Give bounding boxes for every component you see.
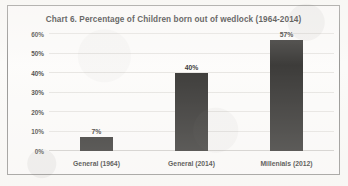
y-axis-tick-label: 30% <box>31 89 44 96</box>
y-axis-tick-label: 50% <box>31 50 44 57</box>
bar[interactable] <box>270 40 303 151</box>
chart-title: Chart 6. Percentage of Children born out… <box>8 15 339 24</box>
plot-area: 60%50%40%30%20%10%0%7%General (1964)40%G… <box>49 34 334 151</box>
bar-value-label: 57% <box>270 31 303 38</box>
bar-group: 57%Millenials (2012) <box>270 34 303 151</box>
y-axis-tick-label: 60% <box>31 30 44 37</box>
y-axis-tick-label: 20% <box>31 108 44 115</box>
chart-frame: Chart 6. Percentage of Children born out… <box>7 5 340 175</box>
x-axis-category-label: General (2014) <box>141 160 242 167</box>
x-axis-category-label: Millenials (2012) <box>236 160 337 167</box>
x-axis-category-label: General (1964) <box>46 160 147 167</box>
y-axis-tick-label: 10% <box>31 128 44 135</box>
bar-value-label: 7% <box>80 128 113 135</box>
bar[interactable] <box>175 73 208 151</box>
bar-group: 7%General (1964) <box>80 34 113 151</box>
scanned-page: Chart 6. Percentage of Children born out… <box>0 0 348 186</box>
bar-value-label: 40% <box>175 64 208 71</box>
y-axis-tick-label: 40% <box>31 69 44 76</box>
y-axis-tick-label: 0% <box>35 147 44 154</box>
bar-group: 40%General (2014) <box>175 34 208 151</box>
bar[interactable] <box>80 137 113 151</box>
